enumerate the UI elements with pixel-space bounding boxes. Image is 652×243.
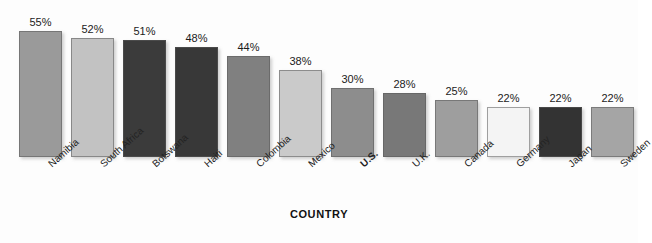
bar-group: 52% — [71, 0, 114, 157]
bar-group: 22% — [487, 0, 530, 157]
bar-group: 30% — [331, 0, 374, 157]
bar-group: 44% — [227, 0, 270, 157]
bar-value-label: 44% — [237, 41, 259, 53]
bar-value-label: 22% — [497, 92, 519, 104]
bar-group: 25% — [435, 0, 478, 157]
bar[interactable] — [383, 93, 426, 157]
bar-value-label: 51% — [133, 25, 155, 37]
x-axis-title: COUNTRY — [0, 208, 638, 220]
bar[interactable] — [19, 31, 62, 157]
bar-value-label: 48% — [185, 32, 207, 44]
bar-value-label: 30% — [341, 73, 363, 85]
bar[interactable] — [539, 107, 582, 157]
bar[interactable] — [331, 88, 374, 157]
bar-group: 22% — [539, 0, 582, 157]
bar-value-label: 28% — [393, 78, 415, 90]
bar-value-label: 25% — [445, 85, 467, 97]
bar-value-label: 55% — [29, 16, 51, 28]
bar-group: 22% — [591, 0, 634, 157]
bar-value-label: 52% — [81, 23, 103, 35]
bar-value-label: 22% — [549, 92, 571, 104]
bar[interactable] — [591, 107, 634, 157]
bar-value-label: 38% — [289, 55, 311, 67]
bar-group: 55% — [19, 0, 62, 157]
bar-group: 28% — [383, 0, 426, 157]
bar[interactable] — [435, 100, 478, 157]
bar-value-label: 22% — [601, 92, 623, 104]
plot-area: 55%52%51%48%44%38%30%28%25%22%22%22% — [0, 0, 638, 157]
bar[interactable] — [71, 38, 114, 157]
bar[interactable] — [487, 107, 530, 157]
bar[interactable] — [227, 56, 270, 157]
